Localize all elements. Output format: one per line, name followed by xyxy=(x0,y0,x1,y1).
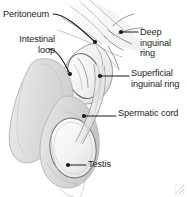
dot-peritoneum xyxy=(93,40,97,44)
label-deep-inguinal-ring-line1: Deep xyxy=(140,27,162,37)
anatomy-figure: Peritoneum Intestinalloop Deepinguinalri… xyxy=(0,0,187,197)
label-intestinal-loop-line1: Intestinal xyxy=(19,34,55,44)
label-deep-inguinal-ring: Deepinguinalring xyxy=(140,27,171,59)
label-intestinal-loop: Intestinalloop xyxy=(3,34,55,55)
label-deep-inguinal-ring-line2: inguinal xyxy=(140,38,171,48)
label-testis: Testis xyxy=(88,159,111,170)
dot-intestinal-loop xyxy=(68,72,72,76)
label-peritoneum: Peritoneum xyxy=(3,9,49,20)
dot-deep-inguinal-ring xyxy=(119,30,123,34)
resize-grip-icon[interactable] xyxy=(174,184,185,195)
label-spermatic-cord: Spermatic cord xyxy=(118,108,178,119)
label-superficial-inguinal-ring-line1: Superficial xyxy=(131,68,173,78)
label-superficial-inguinal-ring-line2: inguinal ring xyxy=(131,79,179,89)
dot-superficial-inguinal-ring xyxy=(98,74,102,78)
label-deep-inguinal-ring-line3: ring xyxy=(140,48,155,58)
dot-spermatic-cord xyxy=(82,114,86,118)
label-intestinal-loop-line2: loop xyxy=(38,45,55,55)
dot-testis xyxy=(66,163,70,167)
label-superficial-inguinal-ring: Superficialinguinal ring xyxy=(131,68,179,89)
